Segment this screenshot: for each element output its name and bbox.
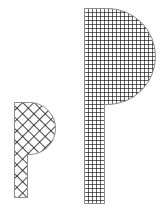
figure-canvas bbox=[0, 0, 164, 212]
hatched-letterforms-figure bbox=[0, 0, 164, 212]
